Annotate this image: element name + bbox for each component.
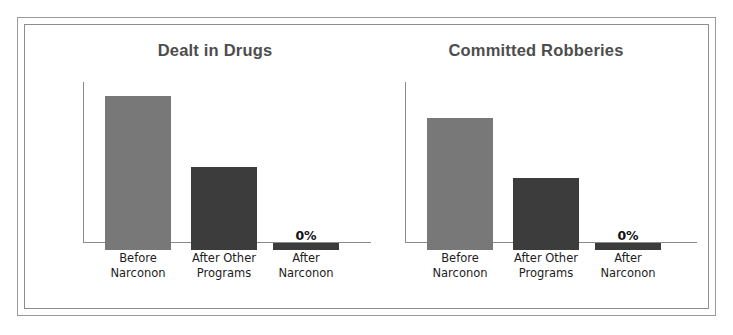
x-tick-label: After Other Programs <box>178 251 270 281</box>
chart-panel-dealt-in-drugs: Dealt in Drugs 73% 37.9% <box>45 25 365 308</box>
x-tick-label-line: After <box>582 251 674 266</box>
x-tick-label: Before Narconon <box>92 251 184 281</box>
bar-series: 73% 37.9% 0% <box>83 82 338 243</box>
charts-row: Dealt in Drugs 73% 37.9% <box>25 25 708 308</box>
x-tick-label-line: Before <box>414 251 506 266</box>
bar-rect[interactable] <box>427 118 493 250</box>
plot-area: 62.2% 32.3% 0% <box>405 82 663 243</box>
bar-series: 62.2% 32.3% 0% <box>405 82 663 243</box>
x-tick-label: After Narconon <box>582 251 674 281</box>
bar-rect[interactable] <box>105 96 171 250</box>
chart-title: Dealt in Drugs <box>45 41 375 60</box>
x-tick-label-line: Programs <box>178 266 270 281</box>
bar-value-label: 0% <box>618 228 639 243</box>
x-tick-label: Before Narconon <box>414 251 506 281</box>
x-tick-label-line: Before <box>92 251 184 266</box>
bar-rect[interactable] <box>595 243 661 250</box>
bar-rect[interactable] <box>273 243 339 250</box>
x-tick-label-line: Programs <box>500 266 592 281</box>
figure-frame-inner: Dealt in Drugs 73% 37.9% <box>24 24 709 309</box>
x-tick-label-line: After Other <box>178 251 270 266</box>
x-tick-label: After Other Programs <box>500 251 592 281</box>
x-tick-label-line: Narconon <box>92 266 184 281</box>
bar-value-label: 0% <box>296 228 317 243</box>
plot-area: 73% 37.9% 0% <box>83 82 338 243</box>
bar-rect[interactable] <box>513 178 579 250</box>
x-tick-label-line: Narconon <box>260 266 352 281</box>
x-tick-label: After Narconon <box>260 251 352 281</box>
bar-rect[interactable] <box>191 167 257 250</box>
x-tick-label-line: Narconon <box>414 266 506 281</box>
x-tick-label-line: After <box>260 251 352 266</box>
chart-title: Committed Robberies <box>365 41 701 60</box>
figure-frame: Dealt in Drugs 73% 37.9% <box>17 17 716 316</box>
chart-panel-committed-robberies: Committed Robberies 62.2% 32.3% <box>365 25 695 308</box>
x-tick-label-line: Narconon <box>582 266 674 281</box>
x-tick-labels: Before Narconon After Other Programs Aft… <box>83 251 338 301</box>
x-tick-labels: Before Narconon After Other Programs Aft… <box>405 251 663 301</box>
x-tick-label-line: After Other <box>500 251 592 266</box>
